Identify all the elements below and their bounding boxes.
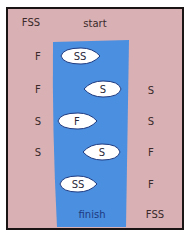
boat-3: F xyxy=(56,112,98,130)
river-crossing-diagram: FSS start F F S S S S F F FSS finish SS … xyxy=(6,7,184,230)
boat-1: SS xyxy=(59,47,101,65)
boat-3-passengers: F xyxy=(56,112,98,130)
left-bank-label-2: F xyxy=(35,84,41,96)
boat-1-passengers: SS xyxy=(59,47,101,65)
boat-4-passengers: S xyxy=(82,143,122,161)
right-bank-finish-label: FSS xyxy=(146,209,164,221)
left-bank-start-label: FSS xyxy=(22,17,40,29)
left-bank-label-1: F xyxy=(35,51,41,63)
boat-2-passengers: S xyxy=(83,80,123,98)
left-bank-label-4: S xyxy=(35,147,41,159)
right-bank-label-2: S xyxy=(148,85,154,97)
finish-label: finish xyxy=(79,209,106,221)
right-bank-label-4: F xyxy=(148,147,154,159)
start-label: start xyxy=(83,18,106,30)
boat-5: SS xyxy=(58,175,98,193)
boat-2: S xyxy=(83,80,123,98)
left-bank-label-3: S xyxy=(35,116,41,128)
boat-4: S xyxy=(82,143,122,161)
right-bank-label-3: S xyxy=(148,116,154,128)
right-bank-label-5: F xyxy=(148,179,154,191)
boat-5-passengers: SS xyxy=(58,175,98,193)
